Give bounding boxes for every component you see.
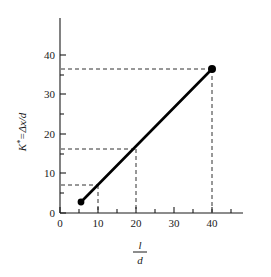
x-tick-label: 10 [93,217,105,229]
y-axis-title-rest: =Δx/d [16,112,28,140]
x-tick-label: 30 [169,217,181,229]
x-axis-minor-ticks [79,209,231,213]
y-tick-label: 20 [44,128,56,140]
x-axis-title-denominator: d [137,254,143,266]
chart-figure: 0 10 20 30 40 0 10 20 30 40 K*=Δx/d l d [0,0,271,277]
x-tick-label: 20 [131,217,143,229]
y-tick-label: 0 [50,207,56,219]
series-line-segment [81,69,212,202]
y-axis-tick-labels: 0 10 20 30 40 [44,49,56,219]
y-tick-label: 40 [44,49,56,61]
data-series-group [78,65,216,205]
y-tick-label: 30 [44,88,56,100]
y-tick-label: 10 [44,167,56,179]
data-point-marker [78,199,85,206]
data-point-marker [208,65,216,73]
x-axis-title-numerator: l [138,239,141,251]
x-axis-title-group: l d [133,239,147,266]
y-axis-title-group: K*=Δx/d [16,112,29,152]
y-axis-major-ticks [60,55,66,213]
axes-group [60,18,243,213]
chart-plot-area: 0 10 20 30 40 0 10 20 30 40 K*=Δx/d l d [0,0,271,277]
x-tick-label: 0 [57,217,63,229]
x-tick-label: 40 [207,217,219,229]
x-axis-tick-labels: 0 10 20 30 40 [57,217,218,229]
y-axis-title: K*=Δx/d [16,112,29,152]
